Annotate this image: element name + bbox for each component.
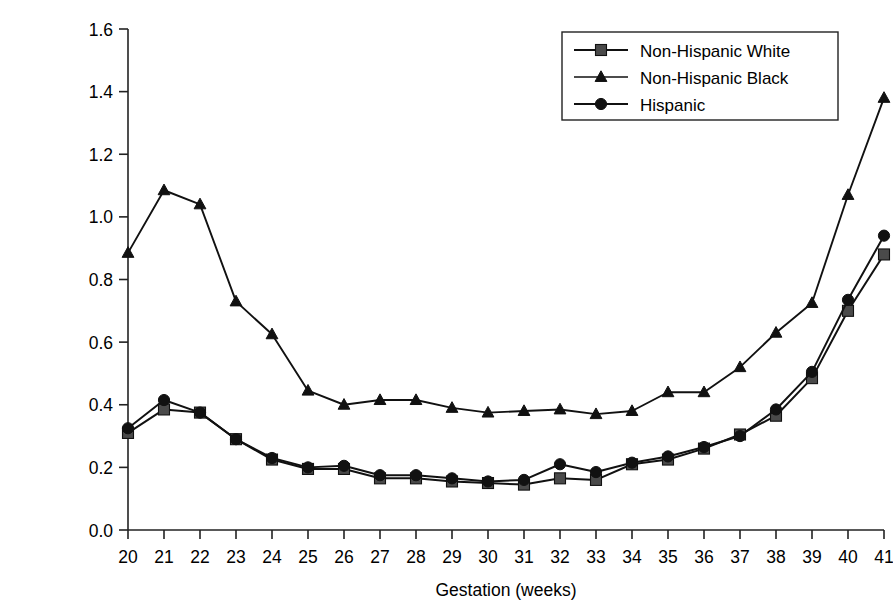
series-hispanic	[122, 230, 889, 487]
x-tick-label: 40	[838, 547, 858, 567]
x-tick-label: 25	[298, 547, 317, 567]
y-tick-label: 0.2	[89, 458, 113, 478]
x-tick-label: 24	[262, 547, 282, 567]
x-tick-label: 36	[694, 547, 713, 567]
y-tick-label: 1.6	[89, 20, 113, 40]
x-tick-label: 34	[622, 547, 642, 567]
marker-circle	[374, 470, 385, 481]
marker-triangle	[626, 405, 638, 416]
x-tick-label: 33	[586, 547, 605, 567]
marker-circle	[302, 462, 313, 473]
marker-triangle	[122, 247, 134, 258]
marker-triangle	[230, 295, 242, 306]
x-tick-label: 38	[766, 547, 785, 567]
marker-circle	[446, 473, 457, 484]
x-tick-label: 27	[370, 547, 389, 567]
x-tick-label: 41	[874, 547, 893, 567]
x-tick-label: 29	[442, 547, 461, 567]
series-line	[128, 98, 884, 414]
data-series-layer	[122, 92, 890, 490]
x-tick-label: 20	[118, 547, 138, 567]
y-tick-label: 0.6	[89, 333, 113, 353]
x-tick-label: 37	[730, 547, 749, 567]
marker-triangle	[806, 297, 818, 308]
marker-triangle	[554, 403, 566, 414]
marker-circle	[230, 434, 241, 445]
marker-triangle	[878, 92, 890, 103]
x-tick-label: 26	[334, 547, 353, 567]
marker-triangle	[158, 184, 170, 195]
marker-circle	[518, 474, 529, 485]
marker-triangle	[302, 384, 314, 395]
x-axis-ticks: 2021222324252627282930313233343536373839…	[118, 530, 893, 567]
legend-label: Non-Hispanic Black	[640, 69, 789, 88]
x-tick-label: 35	[658, 547, 677, 567]
x-tick-label: 30	[478, 547, 498, 567]
marker-circle	[878, 230, 889, 241]
marker-circle	[626, 457, 637, 468]
marker-circle	[482, 476, 493, 487]
marker-circle	[595, 98, 606, 109]
marker-circle	[842, 294, 853, 305]
y-tick-label: 0.4	[89, 395, 114, 415]
marker-circle	[698, 441, 709, 452]
marker-circle	[122, 423, 133, 434]
marker-circle	[662, 451, 673, 462]
y-axis-ticks: 0.00.20.40.60.81.01.21.41.6	[89, 20, 128, 541]
marker-circle	[158, 394, 169, 405]
marker-circle	[554, 459, 565, 470]
y-tick-label: 1.2	[89, 145, 113, 165]
y-tick-label: 1.4	[89, 82, 114, 102]
series-line	[128, 254, 884, 484]
x-tick-label: 22	[190, 547, 209, 567]
legend-label: Hispanic	[640, 96, 706, 115]
marker-circle	[338, 460, 349, 471]
y-tick-label: 0.0	[89, 521, 114, 541]
marker-circle	[806, 366, 817, 377]
x-tick-label: 23	[226, 547, 245, 567]
x-tick-label: 28	[406, 547, 425, 567]
marker-circle	[734, 430, 745, 441]
marker-triangle	[842, 189, 854, 200]
x-tick-label: 39	[802, 547, 821, 567]
marker-circle	[590, 466, 601, 477]
x-tick-label: 32	[550, 547, 569, 567]
marker-circle	[410, 470, 421, 481]
legend-label: Non-Hispanic White	[640, 42, 790, 61]
series-non-hispanic-white	[123, 249, 890, 490]
y-tick-label: 1.0	[89, 207, 114, 227]
chart-figure: Hazard of stillbirth per 1,000 ongoing p…	[0, 0, 893, 616]
marker-square	[879, 249, 890, 260]
marker-circle	[770, 404, 781, 415]
marker-square	[596, 45, 607, 56]
marker-square	[555, 473, 566, 484]
series-non-hispanic-black	[122, 92, 890, 419]
x-tick-label: 21	[154, 547, 173, 567]
marker-circle	[266, 452, 277, 463]
chart-legend: Non-Hispanic WhiteNon-Hispanic BlackHisp…	[562, 32, 838, 120]
marker-circle	[194, 407, 205, 418]
y-tick-label: 0.8	[89, 270, 113, 290]
x-tick-label: 31	[514, 547, 533, 567]
plot-area: 0.00.20.40.60.81.01.21.41.6 202122232425…	[0, 0, 893, 616]
